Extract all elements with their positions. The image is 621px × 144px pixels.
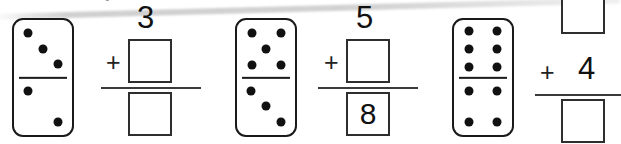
pip [465, 117, 474, 126]
pip [276, 28, 285, 37]
pip [465, 44, 474, 53]
pip [276, 60, 285, 69]
equation-3: + 4 [536, 0, 608, 144]
equation-3-fraction-bar [535, 94, 621, 96]
pip [23, 29, 32, 38]
domino-3-top-half [454, 20, 512, 78]
equation-1-sum-box[interactable] [128, 92, 172, 136]
pip [492, 86, 501, 95]
pip [247, 28, 256, 37]
domino-2-top-half [237, 20, 295, 78]
domino-1-top-half [14, 20, 72, 78]
pip [262, 44, 271, 53]
equation-1-plus-operator: + [106, 50, 121, 75]
scan-streak-artifact [0, 0, 620, 20]
domino-1-bottom-half [14, 78, 72, 136]
domino-3 [452, 18, 514, 137]
pip [492, 44, 501, 53]
equation-3-addend-box[interactable] [561, 0, 605, 34]
equation-2-addend-box[interactable] [346, 39, 390, 83]
domino-3-bottom-half [454, 78, 512, 136]
pip [246, 86, 255, 95]
equation-1-addend-box[interactable] [128, 39, 172, 83]
equation-3-plus-operator: + [540, 60, 555, 85]
pip [492, 117, 501, 126]
equation-3-sum-box[interactable] [561, 99, 605, 143]
equation-2-fraction-bar [318, 87, 418, 89]
pip [247, 60, 256, 69]
pip [492, 62, 501, 71]
pip [54, 117, 63, 126]
equation-2-sum-box[interactable]: 8 [346, 92, 390, 136]
pip [23, 86, 32, 95]
pip [465, 62, 474, 71]
equation-1-addend-top: 3 [137, 2, 154, 33]
pip [39, 44, 48, 53]
domino-1 [12, 18, 74, 137]
equation-2: 5 + 8 [320, 0, 435, 144]
equation-1-fraction-bar [101, 87, 201, 89]
equation-2-plus-operator: + [324, 50, 339, 75]
pip [54, 60, 63, 69]
equation-3-addend-inline: 4 [578, 53, 595, 84]
equation-2-addend-top: 5 [356, 2, 373, 33]
domino-2 [235, 18, 297, 137]
pip [465, 26, 474, 35]
domino-2-bottom-half [237, 78, 295, 136]
pip [262, 102, 271, 111]
pip [492, 26, 501, 35]
pip [277, 117, 286, 126]
pip [465, 86, 474, 95]
equation-1: 3 + [104, 0, 214, 144]
